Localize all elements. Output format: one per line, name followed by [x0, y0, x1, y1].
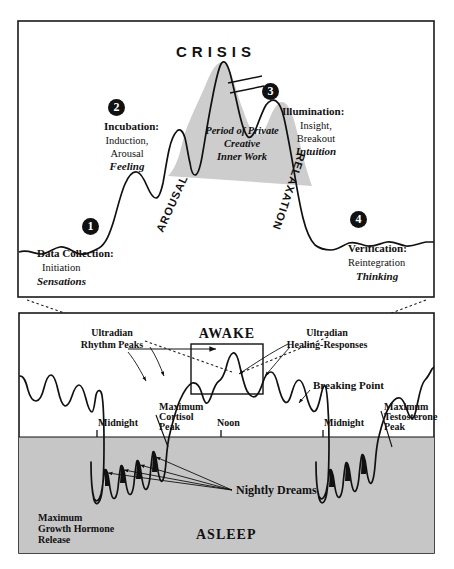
stage-4-emphasis: Thinking [356, 271, 398, 283]
growth-hormone-line-3: Release [38, 535, 70, 546]
private-work-line-1: Period of Private [186, 125, 298, 136]
asleep-label: ASLEEP [196, 528, 256, 543]
private-work-line-2: Creative [186, 138, 298, 149]
stage-2-badge: 2 [108, 99, 125, 116]
stage-2-line3: Arousal [100, 148, 154, 159]
stage-3-badge: 3 [262, 83, 279, 100]
healing-responses-line-1: Ultradian [278, 328, 376, 339]
growth-hormone-line-2: Growth Hormone [38, 524, 114, 535]
stage-3-emphasis: Intuition [284, 146, 348, 158]
stage-1-badge: 1 [82, 218, 99, 235]
stage-2-emphasis: Feeling [100, 161, 154, 173]
breaking-point-label: Breaking Point [313, 380, 384, 392]
stage-4-badge: 4 [350, 211, 367, 228]
stage-4-line2: Reintegration [348, 257, 405, 268]
time-tick-label-noon: Noon [217, 418, 240, 429]
ultradian-peaks-line-1: Ultradian [68, 328, 156, 339]
private-work-line-3: Inner Work [186, 151, 298, 162]
stage-4-title: Verification: [348, 243, 407, 255]
awake-label: AWAKE [191, 327, 263, 342]
stage-3-line3: Breakout [284, 133, 348, 144]
nightly-dreams-label: Nightly Dreams [236, 484, 317, 497]
healing-responses-line-2: Healing-Responses [270, 340, 384, 351]
crisis-label: CRISIS [176, 44, 296, 60]
growth-hormone-line-1: Maximum [38, 513, 82, 524]
stage-2-title: Incubation: [104, 121, 159, 133]
cortisol-peak-line-3: Peak [159, 422, 180, 433]
testosterone-peak-line-3: Peak [384, 422, 405, 433]
ultradian-peaks-line-2: Rhythm Peaks [68, 340, 156, 351]
time-tick-label-midnight-1: Midnight [98, 418, 138, 429]
stage-1-emphasis: Sensations [37, 276, 86, 288]
stage-3-title: Illumination: [282, 106, 344, 118]
time-tick-label-midnight-2: Midnight [324, 418, 364, 429]
stage-2-line2: Induction, [100, 135, 154, 146]
stage-3-line2: Insight, [284, 120, 348, 131]
figure-root: AROUSAL RELAXATION [0, 0, 454, 569]
stage-1-title: Data Collection: [37, 248, 114, 260]
stage-1-line2: Initiation [42, 262, 81, 273]
